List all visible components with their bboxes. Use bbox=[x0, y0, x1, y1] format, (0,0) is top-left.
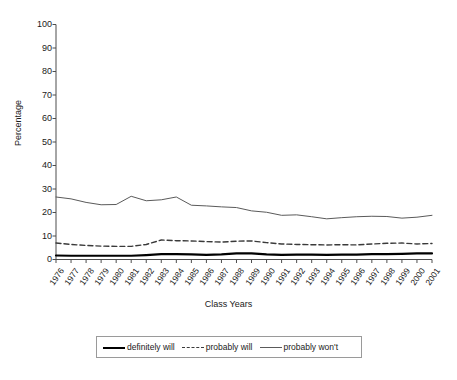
legend-label-probably-wont: probably won't bbox=[284, 342, 339, 352]
chart-legend: definitely will probably will probably w… bbox=[96, 336, 362, 358]
legend-item-probably-will: probably will bbox=[182, 342, 253, 352]
series-line-probably-won-t bbox=[56, 196, 432, 219]
line-chart: Percentage 0102030405060708090100 197619… bbox=[0, 0, 457, 380]
legend-item-definitely-will: definitely will bbox=[103, 342, 175, 352]
series-line-probably-will bbox=[56, 240, 432, 246]
legend-label-definitely-will: definitely will bbox=[127, 342, 175, 352]
legend-item-probably-wont: probably won't bbox=[260, 342, 339, 352]
plot-area bbox=[0, 0, 457, 380]
legend-line-solid-thin-icon bbox=[260, 343, 282, 351]
legend-label-probably-will: probably will bbox=[206, 342, 253, 352]
series-line-definitely-will bbox=[56, 253, 432, 255]
legend-line-solid-thick-icon bbox=[103, 343, 125, 351]
x-axis-title: Class Years bbox=[0, 299, 457, 309]
legend-line-dashed-icon bbox=[182, 343, 204, 351]
